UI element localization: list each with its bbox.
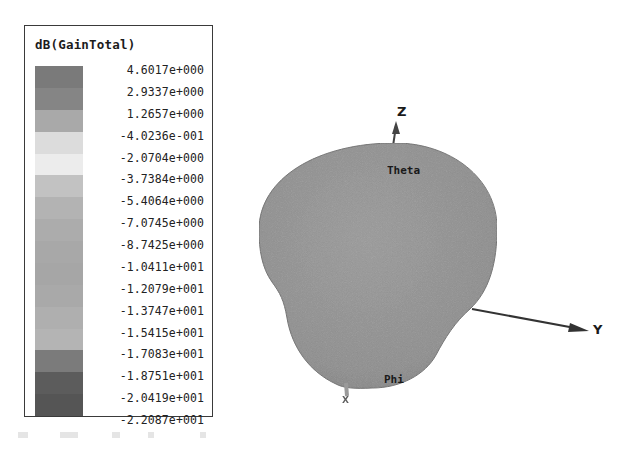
y-axis-line [472,309,575,328]
scan-artifact [200,432,206,438]
scan-artifact [60,432,78,438]
radiation-pattern-plot: Z X Y Theta Phi [0,0,630,449]
phi-label: Phi [384,373,404,386]
y-axis-arrowhead [568,323,589,332]
scan-artifact [148,432,154,438]
z-axis-arrowhead [392,121,400,134]
theta-label: Theta [387,164,420,177]
z-axis-label: Z [397,104,406,119]
y-axis-label: Y [592,322,603,337]
radiation-pattern-surface [259,143,497,388]
scan-artifact [18,432,28,438]
x-axis-label: X [342,395,349,405]
scan-artifact [112,432,120,438]
